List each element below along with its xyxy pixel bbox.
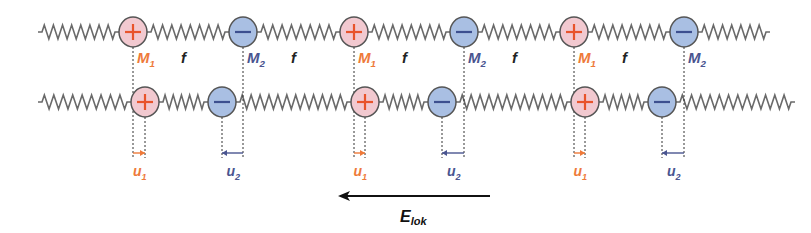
label-f: f: [181, 49, 188, 66]
negative-ion: [428, 87, 456, 117]
spring: [38, 95, 131, 109]
arrowhead-icon: [580, 150, 585, 156]
spring: [368, 25, 450, 39]
arrowhead-icon: [360, 150, 365, 156]
label-u1: u1: [354, 163, 368, 182]
positive-ion: [560, 17, 588, 47]
spring: [236, 95, 351, 109]
field-arrow: Elok: [338, 191, 490, 227]
positive-ion: [351, 87, 379, 117]
negative-ion: [208, 87, 236, 117]
label-m2: M2: [468, 49, 487, 69]
spring: [478, 25, 560, 39]
ionic-chain-diagram: M1fM2fM1fM2fM1fM2u1u2u1u2u1u2 Elok: [0, 0, 811, 233]
spring: [159, 95, 208, 109]
label-m1: M1: [358, 49, 376, 69]
negative-ion: [670, 17, 698, 47]
spring: [379, 95, 428, 109]
spring: [676, 95, 795, 109]
positive-ion: [119, 17, 147, 47]
spring: [588, 25, 670, 39]
label-field: Elok: [400, 208, 427, 227]
label-u2: u2: [447, 163, 461, 182]
label-m2: M2: [247, 49, 266, 69]
label-u2: u2: [227, 163, 241, 182]
arrowhead-icon: [662, 150, 667, 156]
negative-ion: [648, 87, 676, 117]
label-m1: M1: [578, 49, 596, 69]
label-f: f: [512, 49, 519, 66]
label-m1: M1: [137, 49, 155, 69]
spring: [599, 95, 648, 109]
positive-ion: [571, 87, 599, 117]
positive-ion: [340, 17, 368, 47]
label-m2: M2: [688, 49, 707, 69]
label-f: f: [622, 49, 629, 66]
label-u2: u2: [667, 163, 681, 182]
label-f: f: [291, 49, 298, 66]
arrowhead-icon: [222, 150, 227, 156]
negative-ion: [229, 17, 257, 47]
label-u1: u1: [574, 163, 588, 182]
label-u1: u1: [133, 163, 147, 182]
label-f: f: [402, 49, 409, 66]
negative-ion: [450, 17, 478, 47]
spring: [257, 25, 340, 39]
spring: [456, 95, 571, 109]
spring: [698, 25, 770, 39]
spring: [147, 25, 229, 39]
spring: [38, 25, 119, 39]
springs-top-row: [38, 25, 770, 39]
arrowhead-icon: [140, 150, 145, 156]
arrowhead-icon: [442, 150, 447, 156]
positive-ion: [131, 87, 159, 117]
